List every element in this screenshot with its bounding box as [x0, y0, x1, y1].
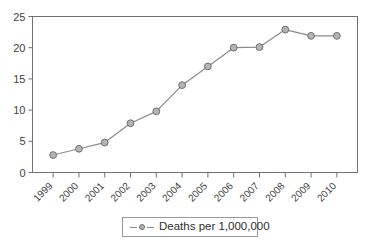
- x-axis: 1999200020012002200320042005200620072008…: [31, 173, 339, 204]
- x-axis-tick-label: 2003: [134, 180, 158, 204]
- x-axis-tick-label: 2000: [57, 180, 81, 204]
- data-point-marker: [205, 63, 212, 70]
- data-series: [50, 26, 341, 158]
- x-axis-tick-label: 2007: [237, 180, 261, 204]
- y-axis-tick-label: 15: [13, 73, 25, 85]
- data-point-marker: [282, 26, 289, 33]
- line-chart: 0510152025 19992000200120022003200420052…: [0, 0, 368, 250]
- series-line: [53, 30, 337, 155]
- legend-marker-icon: [130, 222, 154, 232]
- data-point-marker: [101, 139, 108, 146]
- x-axis-tick-label: 2010: [315, 180, 339, 204]
- legend-line-left: [130, 227, 137, 228]
- data-point-marker: [230, 44, 237, 51]
- y-axis-tick-label: 5: [19, 135, 25, 147]
- data-point-marker: [76, 145, 83, 152]
- x-axis-tick-label: 2002: [108, 180, 132, 204]
- x-axis-tick-label: 2005: [186, 180, 210, 204]
- data-point-marker: [50, 152, 57, 159]
- chart-legend: Deaths per 1,000,000: [122, 217, 258, 237]
- x-axis-tick-label: 2006: [212, 180, 236, 204]
- x-axis-tick-label: 2009: [289, 180, 313, 204]
- y-axis: 0510152025: [13, 11, 32, 179]
- data-point-marker: [308, 32, 315, 39]
- legend-line-right: [147, 227, 154, 228]
- data-point-marker: [256, 44, 263, 51]
- data-point-marker: [179, 82, 186, 89]
- data-point-marker: [153, 108, 160, 115]
- x-axis-tick-label: 1999: [31, 180, 55, 204]
- x-axis-tick-label: 2001: [83, 180, 107, 204]
- circle-marker-icon: [139, 224, 145, 230]
- data-point-marker: [127, 120, 134, 127]
- chart-canvas: 0510152025 19992000200120022003200420052…: [0, 0, 368, 250]
- y-axis-tick-label: 0: [19, 167, 25, 179]
- x-axis-tick-label: 2008: [263, 180, 287, 204]
- x-axis-tick-label: 2004: [160, 180, 184, 204]
- data-point-marker: [333, 32, 340, 39]
- legend-entry-label: Deaths per 1,000,000: [159, 221, 270, 233]
- y-axis-tick-label: 20: [13, 42, 25, 54]
- y-axis-tick-label: 10: [13, 104, 25, 116]
- y-axis-tick-label: 25: [13, 11, 25, 23]
